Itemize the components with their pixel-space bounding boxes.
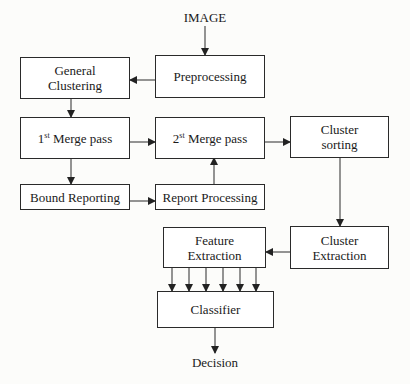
node-preprocessing-label: Preprocessing xyxy=(174,69,247,84)
node-report-processing: Report Processing xyxy=(155,184,265,210)
node-report-processing-label: Report Processing xyxy=(163,190,258,205)
node-general-clustering: General Clustering xyxy=(20,57,130,99)
node-feature-extraction-line2: Extraction xyxy=(187,248,241,263)
node-bound-reporting: Bound Reporting xyxy=(20,184,130,210)
node-cluster-sorting-line2: sorting xyxy=(321,137,357,152)
input-image-label: IMAGE xyxy=(180,10,230,26)
node-merge-pass-2: 2st Merge pass xyxy=(155,117,265,159)
node-merge-pass-2-label: 2st Merge pass xyxy=(173,131,247,146)
output-decision-label: Decision xyxy=(185,355,245,371)
node-cluster-extraction-line2: Extraction xyxy=(312,248,366,263)
node-classifier-label: Classifier xyxy=(191,302,241,317)
node-merge-pass-1-label: 1st Merge pass xyxy=(38,131,112,146)
node-bound-reporting-label: Bound Reporting xyxy=(30,190,120,205)
node-general-clustering-line1: General xyxy=(54,63,95,78)
node-general-clustering-line2: Clustering xyxy=(48,78,102,93)
node-cluster-sorting: Cluster sorting xyxy=(290,116,389,158)
node-merge-pass-1: 1st Merge pass xyxy=(20,117,130,159)
node-cluster-sorting-line1: Cluster xyxy=(321,122,359,137)
node-feature-extraction: Feature Extraction xyxy=(163,227,266,268)
node-cluster-extraction: Cluster Extraction xyxy=(290,226,389,269)
node-feature-extraction-line1: Feature xyxy=(195,233,234,248)
node-preprocessing: Preprocessing xyxy=(155,55,265,98)
node-classifier: Classifier xyxy=(157,291,274,328)
node-cluster-extraction-line1: Cluster xyxy=(321,233,359,248)
